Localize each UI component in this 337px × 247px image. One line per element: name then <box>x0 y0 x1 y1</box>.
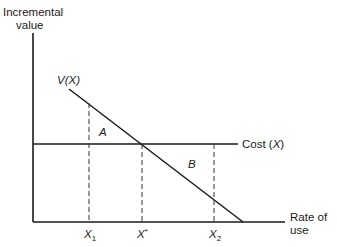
cost-line-label: Cost (X) <box>242 138 284 150</box>
x-axis-label-line2: use <box>290 224 309 236</box>
value-curve-line <box>69 89 243 222</box>
tick-x1: X1 <box>83 228 97 243</box>
x-axis-label-line1: Rate of <box>290 211 328 223</box>
tick-x1-sub: 1 <box>92 234 97 243</box>
region-b-label: B <box>188 158 196 170</box>
y-axis-label-line2: value <box>16 19 44 31</box>
cost-label-suffix: ) <box>280 138 284 150</box>
tick-x2-sub: 2 <box>217 234 222 243</box>
marginal-value-cost-diagram: Incremental value V(X) A B Cost (X) Rate… <box>0 0 337 247</box>
value-curve-label: V(X) <box>57 74 80 86</box>
region-a-label: A <box>98 126 107 138</box>
cost-label-prefix: Cost ( <box>242 138 273 150</box>
tick-x2: X2 <box>208 228 222 243</box>
tick-xstar-sup: * <box>145 227 148 236</box>
y-axis-label-line1: Incremental <box>3 6 63 18</box>
tick-xstar: X* <box>136 227 148 240</box>
